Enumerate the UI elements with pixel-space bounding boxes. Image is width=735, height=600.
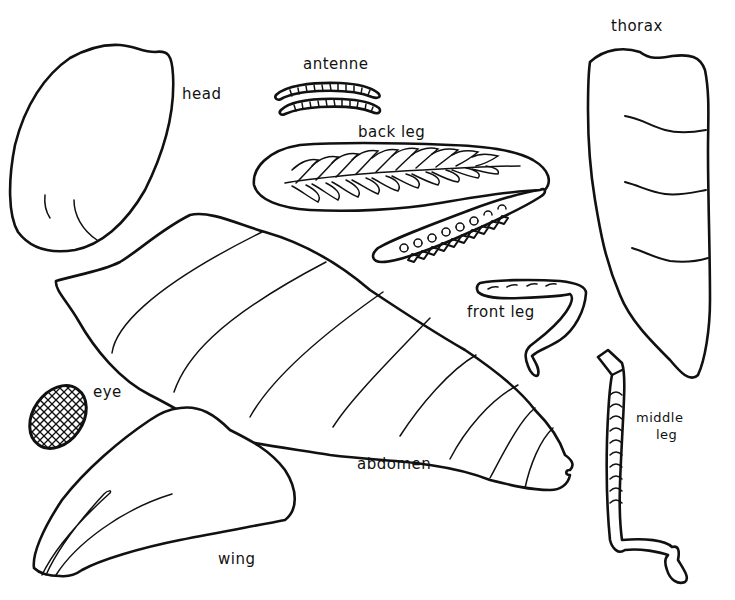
insect-parts-diagram: [0, 0, 735, 600]
antennae-shape: [275, 83, 380, 115]
head-shape: [10, 45, 173, 251]
middle-leg-shape: [598, 350, 687, 583]
front-leg-shape: [477, 280, 586, 376]
label-wing: wing: [218, 550, 255, 568]
label-back-leg: back leg: [358, 123, 425, 141]
label-eye: eye: [93, 383, 122, 401]
label-head: head: [182, 85, 221, 103]
label-middle-leg-line2: leg: [656, 427, 677, 442]
thorax-shape: [588, 49, 710, 377]
label-thorax: thorax: [611, 17, 663, 35]
label-antenne: antenne: [303, 55, 369, 73]
label-front-leg: front leg: [467, 303, 535, 321]
label-middle-leg-line1: middle: [636, 410, 683, 425]
label-abdomen: abdomen: [357, 455, 431, 473]
